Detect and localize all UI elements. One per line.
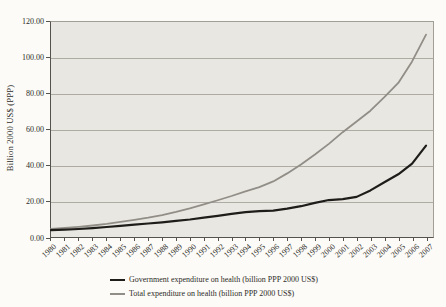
- y-tick-mark: [46, 57, 50, 58]
- x-tick-mark: [343, 238, 344, 241]
- y-tick-mark: [46, 165, 50, 166]
- x-tick-mark: [315, 238, 316, 241]
- x-tick-mark: [64, 238, 65, 241]
- x-tick-mark: [120, 238, 121, 241]
- y-tick-mark: [46, 201, 50, 202]
- y-tick-mark: [46, 21, 50, 22]
- x-tick-mark: [148, 238, 149, 241]
- total-expenditure-line: [51, 35, 426, 229]
- y-tick-label: 80.00: [4, 89, 44, 98]
- x-tick-mark: [301, 238, 302, 241]
- x-tick-mark: [399, 238, 400, 241]
- x-tick-mark: [329, 238, 330, 241]
- x-tick-mark: [371, 238, 372, 241]
- x-tick-mark: [385, 238, 386, 241]
- x-tick-mark: [287, 238, 288, 241]
- x-tick-mark: [245, 238, 246, 241]
- x-tick-mark: [218, 238, 219, 241]
- x-tick-mark: [259, 238, 260, 241]
- y-tick-label: 20.00: [4, 197, 44, 206]
- legend-label-government: Government expenditure on health (billio…: [129, 275, 318, 285]
- government-line-swatch: [110, 279, 125, 281]
- y-tick-label: 120.00: [4, 17, 44, 26]
- x-tick-mark: [273, 238, 274, 241]
- x-tick-mark: [232, 238, 233, 241]
- x-tick-mark: [50, 238, 51, 241]
- total-line-swatch: [110, 293, 125, 295]
- x-tick-mark: [413, 238, 414, 241]
- y-tick-label: 100.00: [4, 53, 44, 62]
- x-tick-mark: [134, 238, 135, 241]
- x-tick-mark: [357, 238, 358, 241]
- x-tick-mark: [162, 238, 163, 241]
- government-expenditure-line: [51, 146, 426, 231]
- x-tick-mark: [176, 238, 177, 241]
- chart-legend: Government expenditure on health (billio…: [110, 275, 318, 303]
- plot-area: [50, 21, 434, 238]
- y-tick-label: 40.00: [4, 161, 44, 170]
- x-tick-mark: [190, 238, 191, 241]
- legend-label-total: Total expenditure on health (billion PPP…: [129, 289, 294, 299]
- x-tick-mark: [78, 238, 79, 241]
- y-tick-label: 60.00: [4, 125, 44, 134]
- legend-item-total: Total expenditure on health (billion PPP…: [110, 289, 318, 299]
- x-tick-mark: [204, 238, 205, 241]
- series-canvas: [51, 22, 433, 237]
- x-tick-mark: [106, 238, 107, 241]
- legend-item-government: Government expenditure on health (billio…: [110, 275, 318, 285]
- y-tick-label: 0.00: [4, 234, 44, 243]
- y-tick-mark: [46, 93, 50, 94]
- x-tick-mark: [427, 238, 428, 241]
- y-tick-mark: [46, 129, 50, 130]
- x-tick-mark: [92, 238, 93, 241]
- health-expenditure-chart: Billion 2000 US$ (PPP) 120.00100.0080.00…: [0, 0, 446, 307]
